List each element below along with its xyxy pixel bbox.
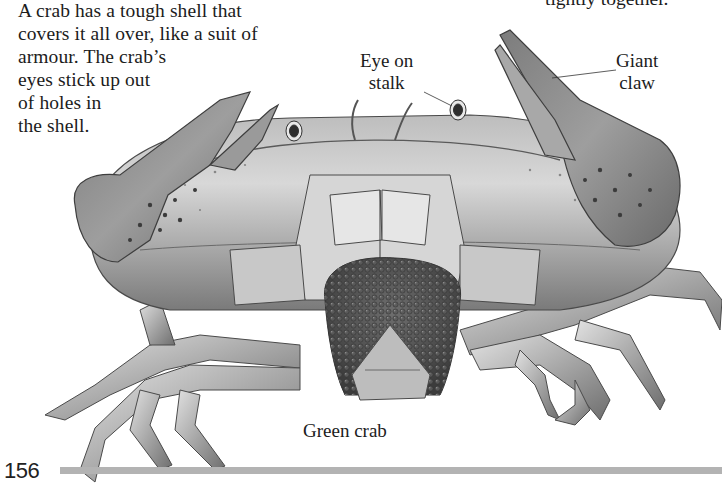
page-number: 156 bbox=[4, 458, 39, 484]
body-line: of holes in bbox=[18, 91, 258, 114]
page-rule-divider bbox=[60, 467, 722, 474]
body-line: armour. The crab’s bbox=[18, 45, 258, 68]
body-line: covers it all over, like a suit of bbox=[18, 22, 258, 45]
label-line: stalk bbox=[360, 72, 413, 94]
body-line: A crab has a tough shell that bbox=[18, 0, 258, 22]
label-eye-on-stalk: Eye on stalk bbox=[360, 50, 413, 94]
figure-caption: Green crab bbox=[303, 420, 387, 442]
claw-leader-line bbox=[552, 70, 616, 78]
body-line: eyes stick up out bbox=[18, 68, 258, 91]
body-paragraph: A crab has a tough shell that covers it … bbox=[18, 0, 258, 137]
label-line: claw bbox=[616, 72, 658, 94]
label-line: Giant bbox=[616, 50, 658, 72]
eye-leader-line bbox=[424, 92, 452, 106]
continued-text: tightly together. bbox=[545, 0, 668, 10]
body-line: the shell. bbox=[18, 114, 258, 137]
egg-mass bbox=[324, 258, 460, 400]
label-giant-claw: Giant claw bbox=[616, 50, 658, 94]
label-line: Eye on bbox=[360, 50, 413, 72]
left-legs bbox=[45, 300, 300, 482]
